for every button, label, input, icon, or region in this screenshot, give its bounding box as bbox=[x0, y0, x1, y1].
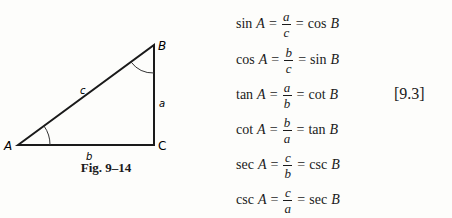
fraction: ab bbox=[283, 81, 292, 110]
fraction: ac bbox=[282, 10, 291, 39]
equals-sign: = bbox=[271, 52, 279, 68]
equals-sign: = bbox=[270, 122, 278, 138]
rhs-function: csc bbox=[309, 157, 327, 173]
rhs-var: B bbox=[330, 52, 339, 68]
figure-caption: Fig. 9–14 bbox=[46, 160, 166, 176]
vertex-label-a: A bbox=[3, 139, 12, 153]
function-name: cos bbox=[236, 52, 255, 68]
function-name: cot bbox=[236, 122, 253, 138]
equals-sign: = bbox=[269, 16, 277, 32]
right-triangle-figure: A B C c a b bbox=[0, 0, 210, 218]
rhs-var: B bbox=[330, 87, 339, 103]
angle-var: A bbox=[258, 192, 267, 208]
equals-sign: = bbox=[298, 52, 306, 68]
equals-sign: = bbox=[296, 16, 304, 32]
rhs-var: B bbox=[331, 192, 340, 208]
equals-sign: = bbox=[297, 122, 305, 138]
formula-sec: sec A = cb = csc B bbox=[236, 150, 340, 180]
rhs-var: B bbox=[330, 16, 339, 32]
angle-arc-a bbox=[44, 126, 50, 145]
function-name: tan bbox=[236, 87, 253, 103]
angle-arc-b bbox=[131, 62, 154, 73]
function-name: sec bbox=[236, 157, 254, 173]
triangle-shape bbox=[18, 45, 154, 145]
fraction: ba bbox=[283, 116, 292, 145]
fraction: bc bbox=[284, 46, 293, 75]
function-name: csc bbox=[236, 192, 254, 208]
fraction: ca bbox=[283, 186, 292, 215]
equals-sign: = bbox=[270, 87, 278, 103]
equals-sign: = bbox=[270, 192, 278, 208]
angle-var: A bbox=[258, 157, 267, 173]
rhs-function: cos bbox=[308, 16, 327, 32]
fraction: cb bbox=[283, 151, 292, 180]
rhs-function: cot bbox=[308, 87, 325, 103]
equation-number: [9.3] bbox=[394, 85, 425, 103]
angle-var: A bbox=[257, 87, 266, 103]
equals-sign: = bbox=[297, 87, 305, 103]
angle-var: A bbox=[257, 122, 266, 138]
formula-csc: csc A = ca = sec B bbox=[236, 185, 340, 215]
equals-sign: = bbox=[297, 157, 305, 173]
formula-tan: tan A = ab = cot B bbox=[236, 80, 338, 110]
side-label-c: c bbox=[80, 85, 86, 96]
formula-sin: sin A = ac = cos B bbox=[236, 9, 339, 39]
formula-cos: cos A = bc = sin B bbox=[236, 45, 339, 75]
rhs-var: B bbox=[331, 157, 340, 173]
rhs-function: tan bbox=[308, 122, 325, 138]
equals-sign: = bbox=[270, 157, 278, 173]
rhs-var: B bbox=[330, 122, 339, 138]
rhs-function: sec bbox=[309, 192, 327, 208]
vertex-label-b: B bbox=[158, 39, 166, 53]
angle-var: A bbox=[256, 16, 265, 32]
equals-sign: = bbox=[297, 192, 305, 208]
vertex-label-c: C bbox=[158, 139, 166, 153]
rhs-function: sin bbox=[310, 52, 326, 68]
side-label-a: a bbox=[159, 98, 165, 109]
function-name: sin bbox=[236, 16, 252, 32]
angle-var: A bbox=[259, 52, 268, 68]
formula-cot: cot A = ba = tan B bbox=[236, 115, 338, 145]
